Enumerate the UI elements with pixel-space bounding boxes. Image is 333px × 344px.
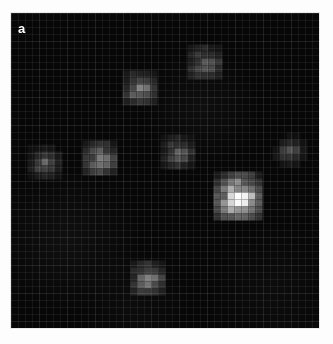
coarse-grid-overlay [11, 13, 319, 328]
image-panel: a [11, 13, 319, 328]
panel-label: a [18, 22, 25, 35]
figure-root: a [0, 0, 333, 344]
